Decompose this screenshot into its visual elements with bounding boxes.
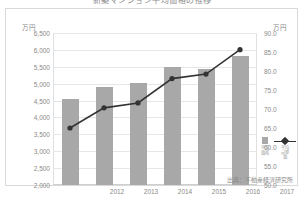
chart-title-strip: 新築マンション平均価格の推移 bbox=[0, 0, 304, 5]
right-axis-tick-label: 90.0 bbox=[264, 30, 277, 37]
source-note: 出典：不動産経済研究所 bbox=[227, 175, 293, 184]
chart-page: 新築マンション平均価格の推移 万円 万円 2,0002,5003,0003,50… bbox=[0, 0, 304, 203]
page-title: 新築マンション平均価格の推移 bbox=[93, 0, 212, 5]
x-axis-tick-label: 2013 bbox=[144, 188, 158, 195]
left-axis-tick-label: 4,500 bbox=[34, 97, 50, 104]
left-axis-tick-label: 3,000 bbox=[34, 148, 50, 155]
legend-line-label: 平均㎡単価 bbox=[281, 146, 289, 160]
x-axis-ticks: 201220132014201520162017 bbox=[53, 9, 257, 10]
legend-bar-label: 平均価格 bbox=[261, 146, 269, 155]
left-axis-tick-label: 2,000 bbox=[34, 182, 50, 189]
legend-line-marker-icon bbox=[274, 138, 296, 144]
line-marker bbox=[67, 125, 72, 130]
chart-frame: 万円 万円 2,0002,5003,0003,5004,0004,5005,00… bbox=[5, 8, 298, 186]
line-marker bbox=[203, 71, 208, 76]
x-axis-tick-label: 2015 bbox=[212, 188, 226, 195]
x-axis-tick-label: 2016 bbox=[246, 188, 260, 195]
right-axis-tick-label: 75.0 bbox=[264, 87, 277, 94]
left-axis-tick-label: 6,000 bbox=[34, 46, 50, 53]
line-series bbox=[53, 33, 257, 185]
x-axis-tick-label: 2012 bbox=[110, 188, 124, 195]
legend-bar-swatch bbox=[262, 137, 268, 144]
left-axis-ticks: 2,0002,5003,0003,5004,0004,5005,0005,500… bbox=[14, 33, 50, 185]
right-axis-tick-label: 85.0 bbox=[264, 49, 277, 56]
right-axis-tick-label: 70.0 bbox=[264, 106, 277, 113]
left-axis-tick-label: 3,500 bbox=[34, 131, 50, 138]
left-axis-tick-label: 6,500 bbox=[34, 30, 50, 37]
line-marker bbox=[101, 105, 106, 110]
right-axis-tick-label: 65.0 bbox=[264, 125, 277, 132]
plot-area bbox=[53, 33, 257, 185]
line-marker bbox=[237, 47, 242, 52]
right-axis-tick-label: 80.0 bbox=[264, 68, 277, 75]
left-axis-tick-label: 2,500 bbox=[34, 165, 50, 172]
x-axis-tick-label: 2014 bbox=[178, 188, 192, 195]
line-marker bbox=[169, 76, 174, 81]
left-axis-tick-label: 5,500 bbox=[34, 63, 50, 70]
line-marker bbox=[135, 100, 140, 105]
left-axis-tick-label: 4,000 bbox=[34, 114, 50, 121]
left-axis-tick-label: 5,000 bbox=[34, 80, 50, 87]
x-axis-tick-label: 2017 bbox=[280, 188, 294, 195]
